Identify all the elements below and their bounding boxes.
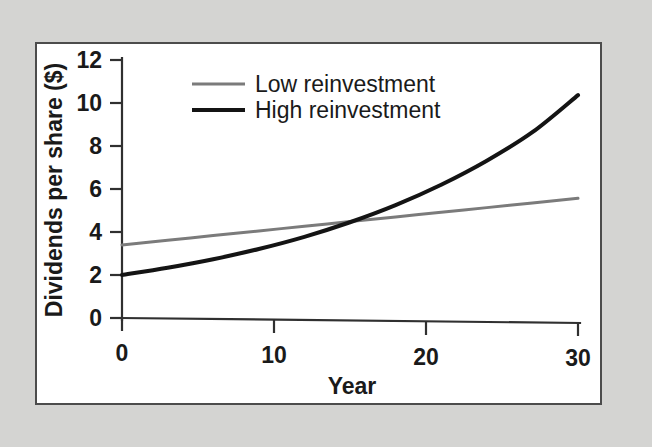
line-chart: 12 10 8 6 4 2 0 0 10 20 30 Year Dividend…	[0, 0, 652, 447]
y-tick-label-8: 8	[89, 133, 102, 159]
y-tick-label-10: 10	[76, 90, 102, 116]
x-tick-label-0: 0	[116, 340, 129, 366]
x-tick-label-10: 10	[261, 342, 287, 368]
x-tick-label-30: 30	[565, 345, 591, 371]
legend-entry-low-reinvestment[interactable]: Low reinvestment	[192, 71, 436, 97]
y-axis-title: Dividends per share ($)	[41, 63, 67, 317]
legend-label-high-reinvestment: High reinvestment	[255, 97, 441, 123]
y-tick-labels: 12 10 8 6 4 2 0	[76, 47, 102, 331]
legend-label-low-reinvestment: Low reinvestment	[255, 71, 436, 97]
x-tick-labels: 0 10 20 30	[116, 340, 591, 371]
chart-legend: Low reinvestment High reinvestment	[192, 71, 441, 123]
legend-entry-high-reinvestment[interactable]: High reinvestment	[192, 97, 441, 123]
x-axis-line	[121, 318, 580, 323]
y-tick-marks	[110, 60, 122, 318]
x-tick-label-20: 20	[413, 344, 439, 370]
figure-root: 12 10 8 6 4 2 0 0 10 20 30 Year Dividend…	[0, 0, 652, 447]
y-tick-label-12: 12	[76, 47, 102, 73]
y-tick-label-0: 0	[89, 305, 102, 331]
x-axis-title: Year	[328, 373, 377, 399]
y-tick-label-4: 4	[89, 219, 102, 245]
y-tick-label-6: 6	[89, 176, 102, 202]
y-tick-label-2: 2	[89, 262, 102, 288]
